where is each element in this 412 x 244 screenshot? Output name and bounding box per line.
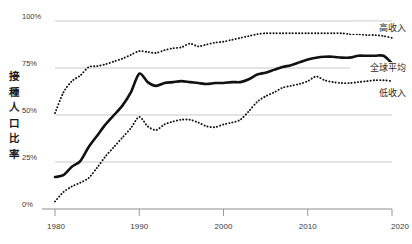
y-tick-label: 75%: [22, 59, 37, 68]
legend-label-全球平均: 全球平均: [370, 62, 406, 73]
x-tick-label: 2000: [215, 222, 233, 231]
y-tick-label: 25%: [22, 153, 37, 162]
y-tick-label: 0%: [22, 200, 33, 209]
y-axis-title-char: 種: [9, 86, 20, 98]
series-line-低收入: [55, 76, 392, 201]
x-tick-label: 2020: [391, 222, 409, 231]
x-tick-label: 2010: [299, 222, 317, 231]
y-tick-label: 50%: [22, 106, 37, 115]
y-axis-title-char: 比: [9, 132, 20, 144]
y-axis-title-char: 接: [9, 70, 20, 82]
y-axis-title-char: 口: [9, 117, 19, 129]
x-tick-label: 1980: [47, 222, 65, 231]
y-axis-tick-labels: 100%75%50%25%0%: [22, 12, 42, 209]
x-tick-label: 1990: [130, 222, 148, 231]
chart-legend: 高收入全球平均低收入: [350, 22, 408, 99]
series-line-高收入: [55, 33, 392, 113]
series-line-全球平均: [55, 55, 392, 177]
y-axis-title-char: 人: [9, 101, 20, 113]
x-axis: [42, 209, 392, 216]
y-tick-label: 100%: [22, 12, 42, 21]
x-axis-tick-labels: 19801990200020102020: [47, 222, 409, 231]
data-series: [55, 33, 392, 201]
y-axis-title: 接種人口比率: [9, 70, 20, 160]
legend-label-高收入: 高收入: [379, 22, 406, 33]
y-axis-title-char: 率: [9, 148, 20, 160]
vaccination-coverage-chart: 100%75%50%25%0% 19801990200020102020 高收入…: [0, 0, 412, 244]
chart-canvas: 100%75%50%25%0% 19801990200020102020 高收入…: [0, 0, 412, 244]
legend-label-低收入: 低收入: [379, 87, 406, 98]
